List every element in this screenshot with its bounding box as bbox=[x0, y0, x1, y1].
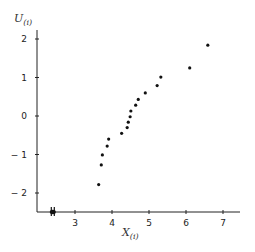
data-point bbox=[97, 183, 100, 186]
data-point bbox=[101, 153, 104, 156]
data-point bbox=[120, 132, 123, 135]
y-tick-label: 1 bbox=[21, 73, 27, 83]
x-tick-label: 6 bbox=[183, 218, 189, 228]
x-tick-label: 5 bbox=[146, 218, 152, 228]
data-point bbox=[127, 121, 130, 124]
data-point bbox=[156, 84, 159, 87]
data-point bbox=[129, 115, 132, 118]
y-axis-label: U(i) bbox=[14, 12, 32, 27]
x-tick-label: 3 bbox=[72, 218, 78, 228]
x-tick-label: 4 bbox=[109, 218, 115, 228]
data-point bbox=[144, 91, 147, 94]
data-point bbox=[126, 126, 129, 129]
y-tick-label: 0 bbox=[21, 111, 27, 121]
x-axis-label: X(i) bbox=[121, 226, 139, 241]
axes bbox=[37, 30, 240, 216]
data-point bbox=[206, 44, 209, 47]
data-point bbox=[106, 144, 109, 147]
y-tick-label: 2 bbox=[21, 34, 27, 44]
data-point bbox=[137, 98, 140, 101]
x-ticks: 34567 bbox=[72, 210, 226, 228]
data-point bbox=[134, 104, 137, 107]
data-point bbox=[159, 76, 162, 79]
y-tick-label: − 2 bbox=[11, 188, 27, 198]
y-tick-label: − 1 bbox=[11, 150, 27, 160]
data-point bbox=[107, 138, 110, 141]
data-point bbox=[129, 109, 132, 112]
data-point bbox=[100, 163, 103, 166]
data-points bbox=[97, 44, 209, 187]
scatter-plot: 34567 210− 1− 2 U(i) X(i) bbox=[0, 0, 255, 252]
axis-break-marker bbox=[50, 207, 56, 216]
y-ticks: 210− 1− 2 bbox=[11, 34, 39, 198]
x-tick-label: 7 bbox=[220, 218, 226, 228]
data-point bbox=[188, 66, 191, 69]
